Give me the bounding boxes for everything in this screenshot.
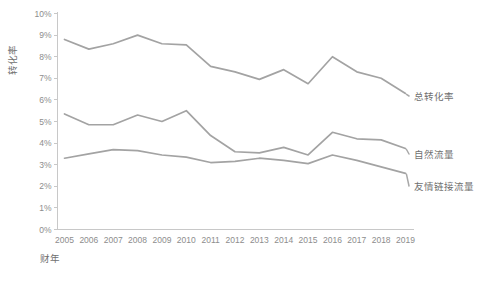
series-label-1: 自然流量: [414, 149, 454, 160]
y-tick-label: 6%: [39, 95, 52, 105]
series-lines: [65, 35, 406, 173]
leader-line-0: [407, 94, 410, 96]
y-axis-ticks: 0%1%2%3%4%5%6%7%8%9%10%: [34, 9, 57, 235]
x-tick-label: 2019: [396, 235, 415, 245]
x-axis-title: 财年: [40, 253, 60, 264]
x-tick-label: 2015: [299, 235, 318, 245]
x-tick-label: 2017: [347, 235, 366, 245]
y-tick-label: 5%: [39, 117, 52, 127]
x-axis-ticks: 2005200620072008200920102011201220132014…: [55, 235, 415, 245]
series-leader-lines: [407, 94, 410, 186]
x-tick-label: 2006: [79, 235, 98, 245]
leader-line-1: [407, 150, 410, 155]
x-tick-label: 2005: [55, 235, 74, 245]
series-line-1: [65, 111, 406, 155]
y-tick-label: 4%: [39, 138, 52, 148]
y-tick-label: 2%: [39, 181, 52, 191]
line-chart: 0%1%2%3%4%5%6%7%8%9%10% 2005200620072008…: [0, 0, 487, 285]
y-tick-label: 0%: [39, 225, 52, 235]
x-tick-label: 2011: [202, 235, 221, 245]
x-tick-label: 2008: [128, 235, 147, 245]
series-line-2: [65, 150, 406, 174]
leader-line-2: [407, 174, 410, 186]
y-tick-label: 9%: [39, 30, 52, 40]
x-tick-label: 2013: [250, 235, 269, 245]
y-tick-label: 10%: [34, 9, 51, 19]
x-tick-label: 2010: [177, 235, 196, 245]
series-label-2: 友情链接流量: [414, 181, 474, 192]
x-tick-label: 2009: [152, 235, 171, 245]
x-tick-label: 2016: [323, 235, 342, 245]
series-line-0: [65, 35, 406, 93]
x-tick-label: 2007: [104, 235, 123, 245]
x-tick-label: 2012: [226, 235, 245, 245]
x-tick-label: 2018: [372, 235, 391, 245]
chart-canvas: 0%1%2%3%4%5%6%7%8%9%10% 2005200620072008…: [0, 0, 487, 285]
y-tick-label: 1%: [39, 203, 52, 213]
series-labels: 总转化率自然流量友情链接流量: [414, 91, 474, 192]
y-axis-title: 转化率: [7, 45, 18, 75]
y-tick-label: 3%: [39, 160, 52, 170]
y-tick-label: 7%: [39, 73, 52, 83]
x-tick-label: 2014: [274, 235, 293, 245]
y-tick-label: 8%: [39, 52, 52, 62]
series-label-0: 总转化率: [414, 91, 454, 102]
